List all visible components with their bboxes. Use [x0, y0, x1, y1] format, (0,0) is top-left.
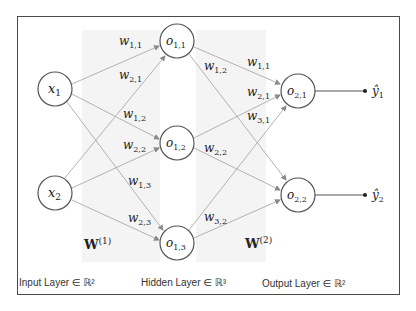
input-node-x2: x2 [38, 176, 72, 210]
input-node-x1: x1 [38, 72, 72, 106]
hidden-layer-label: Hidden Layer ∈ ℝ³ [141, 277, 227, 288]
output-dot-2 [363, 193, 367, 197]
output-node-o21: o2,1 [281, 74, 315, 108]
output-layer-label: Output Layer ∈ ℝ² [262, 278, 346, 289]
weight-matrix-2-label: W(2) [244, 235, 272, 251]
prediction-y1: ŷ1 [371, 84, 384, 100]
hidden-node-o13: o1,3 [160, 226, 194, 260]
hidden-node-o12: o1,2 [160, 126, 194, 160]
output-node-o22: o2,2 [281, 178, 315, 212]
hidden-node-o11: o1,1 [160, 24, 194, 58]
output-dot-1 [363, 89, 367, 93]
weight-matrix-1-shade [82, 30, 160, 262]
prediction-y2: ŷ2 [371, 188, 384, 204]
neural-network-diagram: x1 x2 o1,1 o1,2 o1,3 o2,1 o2,2 ŷ1 ŷ2 w1,… [0, 0, 416, 311]
input-layer-label: Input Layer ∈ ℝ² [19, 277, 95, 288]
